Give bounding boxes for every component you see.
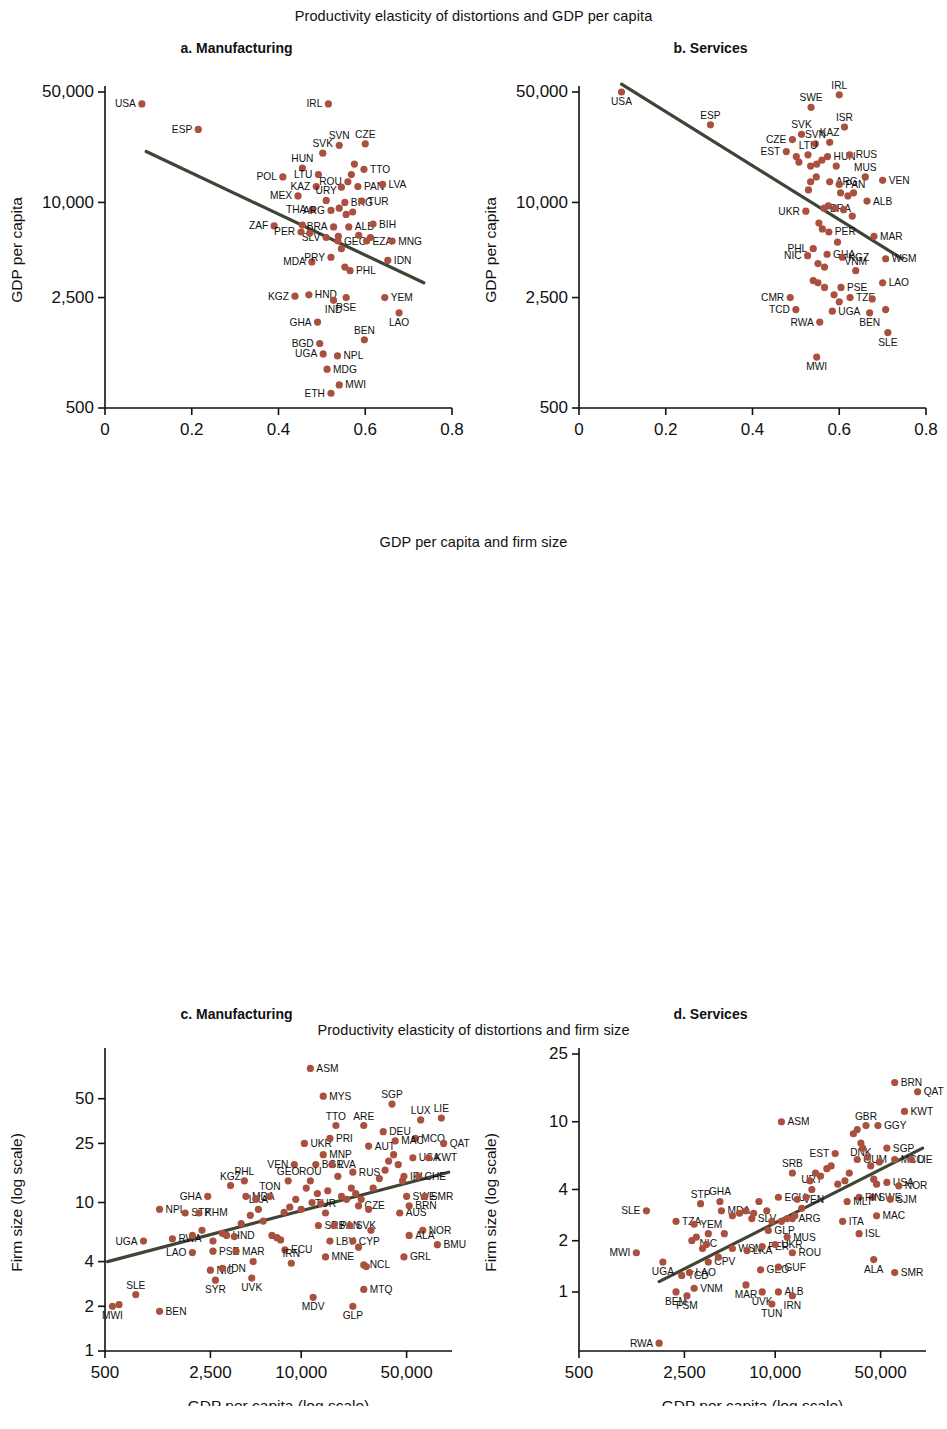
- data-point: [879, 177, 886, 184]
- data-point: [138, 100, 145, 107]
- point-label: VNM: [844, 256, 867, 267]
- data-point: [914, 1088, 921, 1095]
- data-point: [365, 1206, 372, 1213]
- data-point: [343, 211, 350, 218]
- data-point: [768, 1218, 775, 1225]
- panel-c-svg: 1241025505002,50010,00050,000ASMMYSSGPTT…: [0, 1006, 473, 1406]
- data-point: [817, 1172, 824, 1179]
- data-point: [836, 91, 843, 98]
- point-label: UGA: [295, 348, 317, 359]
- data-point: [362, 140, 369, 147]
- data-point: [895, 1182, 902, 1189]
- data-point: [292, 1196, 299, 1203]
- point-label: FSM: [676, 1300, 698, 1311]
- data-point: [798, 1205, 805, 1212]
- data-point: [884, 329, 891, 336]
- data-point: [846, 1169, 853, 1176]
- data-point: [837, 284, 844, 291]
- data-point: [891, 1156, 898, 1163]
- data-point: [826, 139, 833, 146]
- data-point: [406, 1202, 413, 1209]
- data-point: [195, 1209, 202, 1216]
- data-point: [707, 121, 714, 128]
- point-label: KWT: [435, 1152, 458, 1163]
- section-title-3: Productivity elasticity of distortions a…: [0, 1022, 947, 1038]
- data-point: [804, 151, 811, 158]
- data-point: [343, 294, 350, 301]
- point-label: ARG: [798, 1213, 820, 1224]
- data-point: [891, 1079, 898, 1086]
- point-label: SRB: [782, 1158, 803, 1169]
- point-label: ASM: [316, 1063, 338, 1074]
- y-tick-label: 500: [66, 398, 94, 417]
- data-point: [862, 1122, 869, 1129]
- point-label: LVA: [389, 179, 407, 190]
- data-point: [355, 1202, 362, 1209]
- data-point: [354, 183, 361, 190]
- data-point: [691, 1285, 698, 1292]
- data-point: [189, 1249, 196, 1256]
- data-point: [351, 160, 358, 167]
- point-label: URY: [316, 185, 338, 196]
- data-point: [315, 1222, 322, 1229]
- point-label: QAT: [450, 1138, 470, 1149]
- panel-a: a. Manufacturing 5002,50010,00050,00000.…: [0, 40, 473, 440]
- data-point: [834, 1181, 841, 1188]
- data-point: [883, 1179, 890, 1186]
- point-label: MNG: [398, 236, 422, 247]
- data-point: [286, 1204, 293, 1211]
- y-axis-title: GDP per capita: [8, 197, 25, 303]
- point-label: SVK: [313, 138, 334, 149]
- data-point: [750, 1210, 757, 1217]
- data-point: [365, 1142, 372, 1149]
- point-label: LAO: [889, 277, 909, 288]
- point-label: IRN: [283, 1248, 301, 1259]
- panel-d: d. Services 12410255002,50010,00050,000B…: [474, 1006, 947, 1406]
- data-point: [219, 1230, 226, 1237]
- point-label: MUS: [854, 162, 877, 173]
- data-point: [421, 1193, 428, 1200]
- data-point: [736, 1210, 743, 1217]
- x-tick-label: 10,000: [749, 1363, 801, 1382]
- point-label: PHL: [356, 265, 376, 276]
- data-point: [355, 232, 362, 239]
- point-label: SYR: [205, 1284, 226, 1295]
- y-axis-title: GDP per capita: [482, 197, 499, 303]
- point-label: MAR: [880, 231, 903, 242]
- data-point: [308, 1199, 315, 1206]
- data-point: [355, 1244, 362, 1251]
- y-tick-label: 50,000: [516, 82, 568, 101]
- data-point: [334, 352, 341, 359]
- point-label: PHL: [234, 1166, 254, 1177]
- section-title-2: GDP per capita and firm size: [0, 534, 947, 550]
- point-label: VEN: [889, 175, 910, 186]
- y-tick-label: 10: [75, 1193, 94, 1212]
- data-point: [381, 1167, 388, 1174]
- point-label: MLT: [853, 1196, 873, 1207]
- y-tick-label: 2: [559, 1231, 568, 1250]
- point-label: CZE: [766, 134, 787, 145]
- point-label: TON: [259, 1181, 280, 1192]
- point-label: SLE: [878, 337, 897, 348]
- data-point: [376, 1175, 383, 1182]
- x-tick-label: 0.6: [827, 420, 851, 439]
- data-point: [345, 223, 352, 230]
- data-point: [805, 186, 812, 193]
- data-point: [876, 1158, 883, 1165]
- data-point: [323, 197, 330, 204]
- point-label: EST: [761, 146, 781, 157]
- data-point: [320, 1093, 327, 1100]
- point-label: QAT: [924, 1086, 944, 1097]
- point-label: IRN: [784, 1300, 802, 1311]
- point-label: UGA: [838, 306, 860, 317]
- data-point: [789, 1292, 796, 1299]
- point-label: SGP: [381, 1089, 403, 1100]
- data-point: [716, 1198, 723, 1205]
- data-point: [869, 295, 876, 302]
- x-tick-label: 10,000: [275, 1363, 327, 1382]
- y-tick-label: 50: [75, 1089, 94, 1108]
- data-point: [301, 1140, 308, 1147]
- point-label: SMR: [901, 1267, 924, 1278]
- data-point: [656, 1340, 663, 1347]
- data-point: [349, 1169, 356, 1176]
